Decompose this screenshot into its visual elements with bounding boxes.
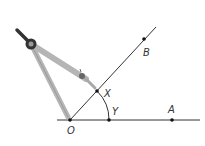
label-x: X bbox=[103, 88, 112, 99]
point-b bbox=[142, 37, 146, 41]
compass-icon bbox=[17, 30, 95, 117]
label-a: A bbox=[167, 104, 175, 115]
point-o bbox=[68, 118, 72, 122]
point-a bbox=[170, 118, 174, 122]
construction-diagram: O Y A X B bbox=[0, 0, 205, 146]
label-o: O bbox=[67, 125, 75, 136]
point-x bbox=[95, 89, 99, 93]
label-y: Y bbox=[112, 106, 119, 117]
point-y bbox=[107, 118, 111, 122]
label-b: B bbox=[143, 47, 150, 58]
